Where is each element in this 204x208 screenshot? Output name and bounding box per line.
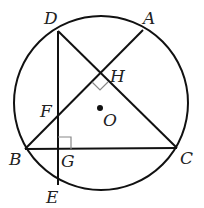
label-b: B	[8, 149, 22, 169]
segment-dc	[58, 31, 177, 148]
label-f: F	[39, 101, 53, 121]
segment-bc	[25, 148, 177, 149]
segment-ab	[25, 30, 143, 149]
label-e: E	[45, 187, 59, 207]
geometry-diagram: D A H O F B G C E	[0, 0, 204, 208]
label-d: D	[43, 8, 58, 28]
right-angle-mark-g	[58, 137, 71, 149]
label-o: O	[103, 110, 117, 130]
label-c: C	[180, 148, 193, 168]
right-angle-mark-h	[92, 82, 108, 90]
label-g: G	[61, 151, 75, 171]
label-a: A	[141, 8, 155, 28]
label-h: H	[109, 66, 126, 86]
